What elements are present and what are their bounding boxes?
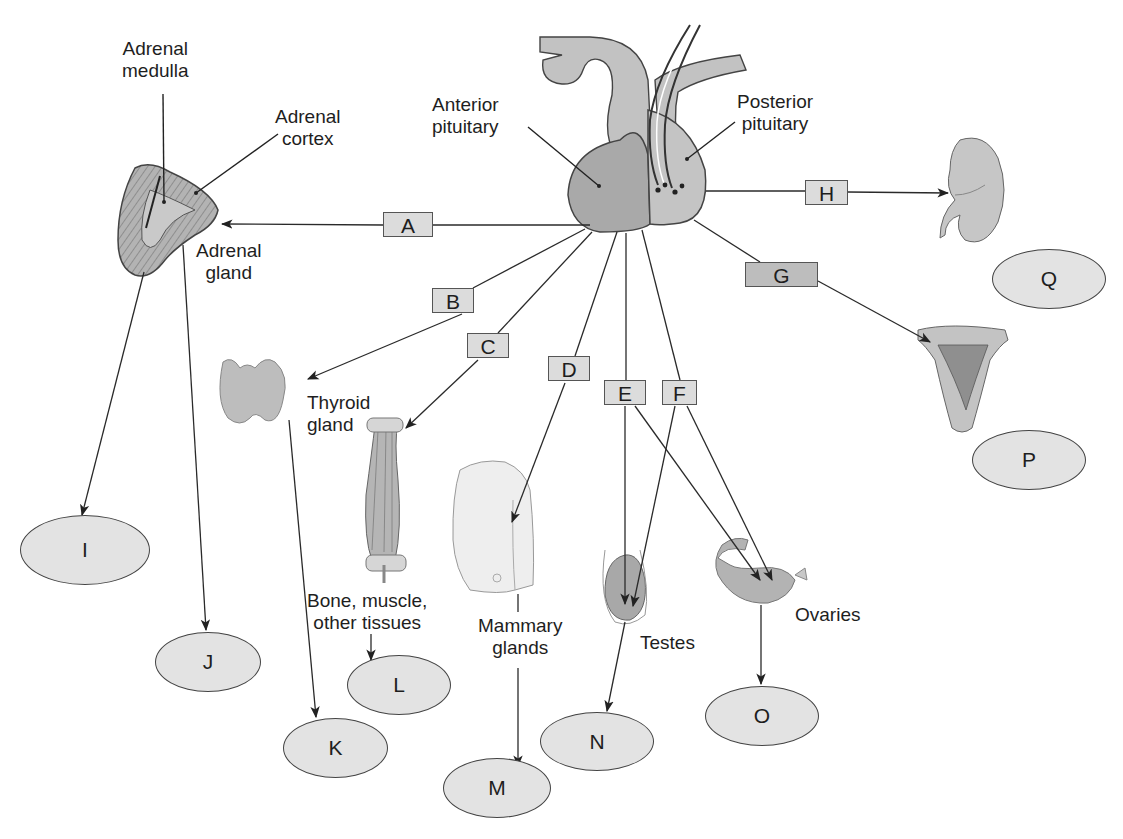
label-adrenal-cortex: Adrenalcortex bbox=[275, 106, 341, 150]
hormone-box-h[interactable]: H bbox=[805, 180, 848, 205]
thyroid-illustration bbox=[220, 360, 285, 423]
ovary-illustration bbox=[716, 538, 807, 603]
answer-oval-p[interactable]: P bbox=[972, 430, 1086, 490]
answer-oval-o[interactable]: O bbox=[705, 686, 819, 746]
label-adrenal-medulla: Adrenalmedulla bbox=[122, 38, 189, 82]
endocrine-diagram bbox=[0, 0, 1123, 839]
label-thyroid-gland: Thyroidgland bbox=[307, 392, 370, 436]
hormone-box-d[interactable]: D bbox=[548, 356, 590, 381]
answer-oval-q[interactable]: Q bbox=[992, 249, 1106, 309]
answer-oval-k[interactable]: K bbox=[283, 718, 388, 778]
pituitary-gland bbox=[540, 25, 746, 232]
label-ovaries: Ovaries bbox=[795, 604, 860, 626]
label-testes: Testes bbox=[640, 632, 695, 654]
hormone-box-c[interactable]: C bbox=[467, 333, 509, 358]
hormone-box-a[interactable]: A bbox=[383, 212, 433, 237]
muscle-bone-illustration bbox=[366, 418, 406, 583]
hormone-box-b[interactable]: B bbox=[432, 288, 474, 313]
uterus-illustration bbox=[918, 326, 1008, 432]
kidney-illustration bbox=[940, 138, 1004, 242]
answer-oval-n[interactable]: N bbox=[540, 712, 654, 771]
answer-oval-l[interactable]: L bbox=[347, 655, 451, 715]
label-posterior-pituitary: Posteriorpituitary bbox=[737, 91, 813, 135]
answer-oval-i[interactable]: I bbox=[20, 515, 150, 585]
label-adrenal-gland: Adrenalgland bbox=[196, 240, 262, 284]
answer-oval-m[interactable]: M bbox=[443, 758, 551, 818]
label-mammary-glands: Mammaryglands bbox=[478, 615, 562, 659]
hormone-box-e[interactable]: E bbox=[604, 380, 646, 405]
mammary-illustration bbox=[453, 461, 534, 593]
hormone-box-g[interactable]: G bbox=[745, 262, 818, 287]
label-bone-muscle-tissues: Bone, muscle,other tissues bbox=[307, 590, 427, 634]
label-anterior-pituitary: Anteriorpituitary bbox=[432, 94, 499, 138]
hormone-box-f[interactable]: F bbox=[662, 380, 697, 405]
answer-oval-j[interactable]: J bbox=[155, 632, 261, 692]
anterior-pituitary-lobe bbox=[568, 133, 650, 232]
